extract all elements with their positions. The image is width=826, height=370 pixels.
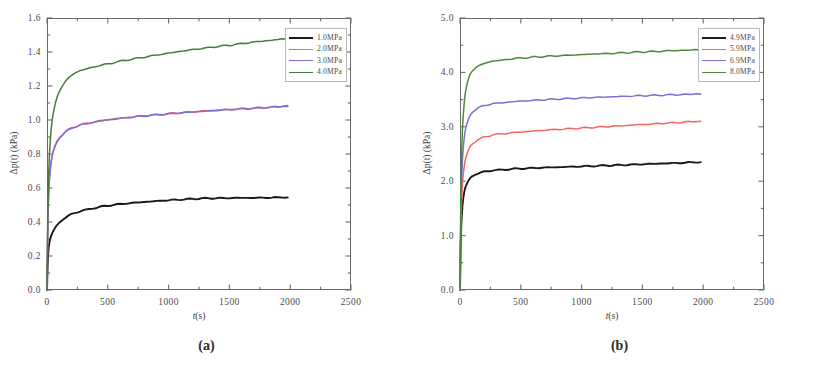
x-axis-tick-label: 2000 — [693, 297, 714, 307]
y-axis-tick-label: 5.0 — [414, 13, 454, 23]
y-axis-tick-label: 0.2 — [1, 251, 41, 261]
legend-color-swatch — [289, 72, 313, 73]
legend-label: 5.9MPa — [730, 45, 755, 53]
y-axis-tick-label: 1.2 — [1, 81, 41, 91]
legend-label: 1.0MPa — [317, 34, 342, 42]
y-axis-tick-label: 0.4 — [1, 217, 41, 227]
x-axis-tick-label: 1500 — [219, 297, 240, 307]
legend-color-swatch — [702, 37, 726, 39]
legend-label: 4.0MPa — [317, 68, 342, 76]
series-line — [460, 121, 701, 290]
series-line — [47, 39, 288, 290]
y-axis-tick-label: 0.8 — [1, 149, 41, 159]
legend-item[interactable]: 8.0MPa — [702, 67, 755, 79]
y-axis-title: Δp(t) (kPa) — [9, 113, 19, 193]
legend-item[interactable]: 4.0MPa — [289, 67, 342, 79]
legend[interactable]: 4.9MPa5.9MPa6.9MPa8.0MPa — [698, 28, 760, 82]
legend-color-swatch — [289, 49, 313, 50]
y-axis-tick-label: 0.0 — [414, 285, 454, 295]
x-axis-tick-label: 1000 — [158, 297, 179, 307]
legend-item[interactable]: 6.9MPa — [702, 55, 755, 67]
x-axis-tick-label: 0 — [44, 297, 49, 307]
y-axis-tick-label: 1.6 — [1, 13, 41, 23]
x-axis-tick-label: 0 — [457, 297, 462, 307]
y-axis-tick-label: 0.0 — [1, 285, 41, 295]
y-axis-tick-label: 1.0 — [1, 115, 41, 125]
y-axis-tick-label: 2.0 — [414, 176, 454, 186]
plot-area-a: 0.00.20.40.60.81.01.21.41.60500100015002… — [47, 18, 351, 290]
x-axis-tick-label: 2500 — [754, 297, 775, 307]
panel-a: 0.00.20.40.60.81.01.21.41.60500100015002… — [0, 0, 413, 370]
figure-container: 0.00.20.40.60.81.01.21.41.60500100015002… — [0, 0, 826, 370]
x-axis-title-unit: (s) — [608, 311, 618, 321]
legend-color-swatch — [289, 60, 313, 61]
y-axis-tick-label: 4.0 — [414, 67, 454, 77]
x-axis-tick-label: 500 — [513, 297, 528, 307]
legend-color-swatch — [702, 60, 726, 61]
legend-label: 8.0MPa — [730, 68, 755, 76]
panel-caption-b: (b) — [413, 338, 826, 354]
legend-item[interactable]: 5.9MPa — [702, 44, 755, 56]
y-axis-tick-label: 3.0 — [414, 122, 454, 132]
legend-item[interactable]: 1.0MPa — [289, 32, 342, 44]
legend[interactable]: 1.0MPa2.0MPa3.0MPa4.0MPa — [285, 28, 347, 82]
legend-label: 2.0MPa — [317, 45, 342, 53]
x-axis-tick-label: 1000 — [571, 297, 592, 307]
series-line — [460, 162, 701, 290]
legend-item[interactable]: 4.9MPa — [702, 32, 755, 44]
legend-label: 4.9MPa — [730, 34, 755, 42]
legend-color-swatch — [702, 49, 726, 50]
legend-label: 3.0MPa — [317, 57, 342, 65]
y-axis-tick-label: 1.4 — [1, 47, 41, 57]
x-axis-title-unit: (s) — [195, 311, 205, 321]
panel-b: 0.01.02.03.04.05.005001000150020002500t(… — [413, 0, 826, 370]
panel-caption-a: (a) — [0, 338, 413, 354]
legend-color-swatch — [289, 37, 313, 39]
y-axis-tick-label: 1.0 — [414, 231, 454, 241]
x-axis-title: t(s) — [47, 311, 351, 321]
legend-label: 6.9MPa — [730, 57, 755, 65]
legend-item[interactable]: 2.0MPa — [289, 44, 342, 56]
series-line — [47, 197, 288, 290]
legend-item[interactable]: 3.0MPa — [289, 55, 342, 67]
x-axis-tick-label: 2000 — [280, 297, 301, 307]
x-axis-tick-label: 2500 — [341, 297, 362, 307]
x-axis-tick-label: 500 — [100, 297, 115, 307]
plot-area-b: 0.01.02.03.04.05.005001000150020002500t(… — [460, 18, 764, 290]
y-axis-title: Δp(t) (kPa) — [422, 113, 432, 193]
legend-color-swatch — [702, 72, 726, 73]
x-axis-title: t(s) — [460, 311, 764, 321]
y-axis-tick-label: 0.6 — [1, 183, 41, 193]
x-axis-tick-label: 1500 — [632, 297, 653, 307]
